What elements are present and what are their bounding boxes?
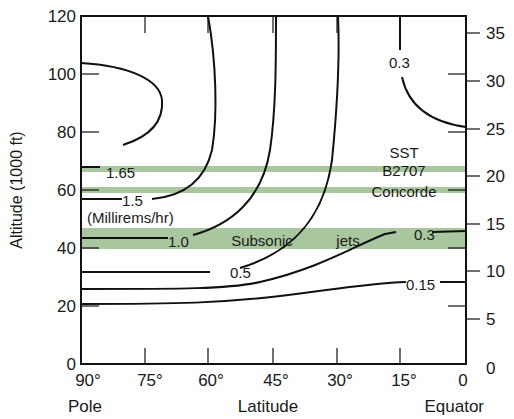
y-tick-labels-right: 0 5 10 15 20 25 30 35 xyxy=(486,24,505,378)
x-tick-labels: 90° 75° 60° 45° 30° 15° 0 xyxy=(75,371,468,390)
y-tick-80: 80 xyxy=(57,123,76,142)
yr-tick-30: 30 xyxy=(486,72,505,91)
yr-tick-10: 10 xyxy=(486,262,505,281)
label-sst: SST xyxy=(389,144,418,161)
y-axis-title: Altitude (1000 ft) xyxy=(8,131,25,248)
contour-1-0 xyxy=(81,16,276,238)
yr-tick-20: 20 xyxy=(486,167,505,186)
label-0-15: 0.15 xyxy=(406,276,435,293)
y-tick-20: 20 xyxy=(57,297,76,316)
yr-tick-15: 15 xyxy=(486,215,505,234)
label-1-65: 1.65 xyxy=(106,164,135,181)
contour-0-3-upper xyxy=(400,16,466,127)
yr-tick-0: 0 xyxy=(486,359,495,378)
label-b2707: B2707 xyxy=(382,162,425,179)
yr-tick-5: 5 xyxy=(486,310,495,329)
contour-chart: 1.65 1.5 1.0 0.5 0.3 0.3 0.15 (Millirems… xyxy=(0,0,514,419)
label-concorde: Concorde xyxy=(371,183,436,200)
y-tick-100: 100 xyxy=(48,65,76,84)
y-tick-40: 40 xyxy=(57,239,76,258)
x-tick-30: 30° xyxy=(327,371,353,390)
label-0-5: 0.5 xyxy=(230,264,251,281)
y-tick-60: 60 xyxy=(57,181,76,200)
x-tick-15: 15° xyxy=(391,371,417,390)
x-axis-label-equator: Equator xyxy=(424,397,484,416)
yr-tick-35: 35 xyxy=(486,24,505,43)
label-0-3-upper: 0.3 xyxy=(389,54,410,71)
contour-1-65 xyxy=(81,63,162,145)
x-axis-label-pole: Pole xyxy=(68,397,102,416)
label-subsonic: Subsonic xyxy=(231,232,293,249)
x-tick-45: 45° xyxy=(263,371,289,390)
label-1-5: 1.5 xyxy=(122,192,143,209)
label-0-3-lower: 0.3 xyxy=(414,226,435,243)
y-tick-labels-left: 0 20 40 60 80 100 120 xyxy=(48,7,76,374)
yr-tick-25: 25 xyxy=(486,120,505,139)
y-ticks-right xyxy=(448,33,480,319)
x-tick-90: 90° xyxy=(75,371,101,390)
x-tick-60: 60° xyxy=(198,371,224,390)
label-1-0: 1.0 xyxy=(168,233,189,250)
units-label: (Millirems/hr) xyxy=(87,209,174,226)
x-axis-title: Latitude xyxy=(238,397,299,416)
x-tick-75: 75° xyxy=(137,371,163,390)
y-tick-120: 120 xyxy=(48,7,76,26)
label-jets: jets xyxy=(335,232,359,249)
x-tick-0: 0 xyxy=(458,371,467,390)
